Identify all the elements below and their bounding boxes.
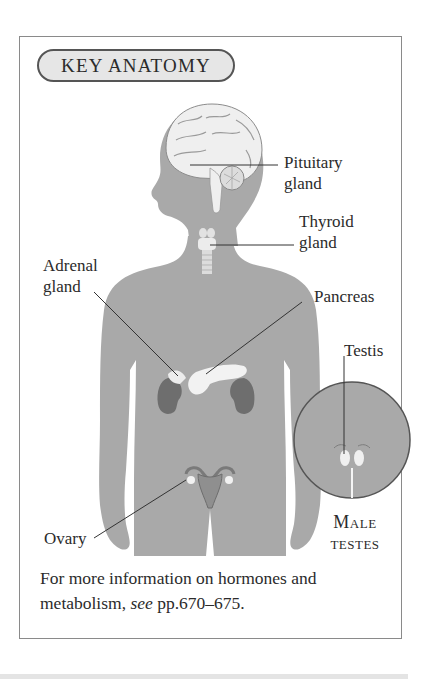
page-bottom-bar xyxy=(0,674,408,679)
label-line: Adrenal xyxy=(43,255,98,276)
label-line: Pancreas xyxy=(314,286,374,307)
label-adrenal-gland: Adrenal gland xyxy=(43,255,98,297)
label-line: Ovary xyxy=(44,528,86,549)
label-pancreas: Pancreas xyxy=(314,286,374,307)
label-line: Male xyxy=(322,512,388,533)
caption-page-ref: pp.670–675. xyxy=(153,593,245,613)
caption-see: see xyxy=(130,593,152,613)
label-pituitary-gland: Pituitary gland xyxy=(284,152,343,194)
label-line: gland xyxy=(284,173,343,194)
label-line: Testis xyxy=(344,340,383,361)
label-line: gland xyxy=(43,276,98,297)
label-line: Pituitary xyxy=(284,152,343,173)
label-male-testes: Male testes xyxy=(322,512,388,554)
male-testes-inset xyxy=(294,382,410,498)
label-testis: Testis xyxy=(344,340,383,361)
label-ovary: Ovary xyxy=(44,528,86,549)
cross-reference-caption: For more information on hormones and met… xyxy=(40,566,390,616)
label-thyroid-gland: Thyroid gland xyxy=(299,211,354,253)
label-line: testes xyxy=(322,533,388,554)
label-line: gland xyxy=(299,232,354,253)
label-line: Thyroid xyxy=(299,211,354,232)
